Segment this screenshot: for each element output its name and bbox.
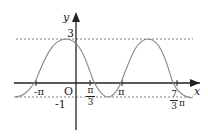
y-axis-label: y [63, 12, 69, 23]
x-tick-neg-pi: -π [34, 87, 44, 97]
origin-label: O [64, 86, 73, 97]
x-tick-pi-over-3: π3 [86, 86, 95, 107]
y-axis-arrow-icon [72, 12, 80, 22]
y-tick-min: -1 [55, 99, 66, 110]
graph-canvas [0, 0, 208, 138]
y-tick-max: 3 [67, 28, 74, 39]
x-tick-7pi-suffix: π [179, 99, 185, 108]
x-tick-pi: π [118, 87, 125, 97]
x-axis-label: x [194, 86, 200, 97]
x-tick-7pi-over-3: 73 [170, 90, 178, 111]
